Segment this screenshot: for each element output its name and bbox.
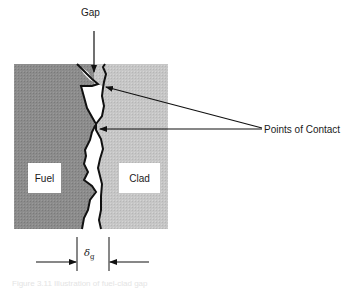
clad-label: Clad — [129, 173, 150, 184]
clad-label-box: Clad — [119, 163, 160, 193]
fuel-label: Fuel — [35, 173, 54, 184]
points-of-contact-label: Points of Contact — [264, 124, 340, 135]
fuel-label-box: Fuel — [28, 163, 61, 193]
gap-width-subscript: g — [90, 253, 94, 261]
clad-region — [94, 64, 168, 229]
figure-caption: Figure 3.11 Illustration of fuel-clad ga… — [12, 279, 147, 288]
gap-label: Gap — [81, 7, 100, 18]
gap-width-label: δg — [84, 247, 95, 261]
